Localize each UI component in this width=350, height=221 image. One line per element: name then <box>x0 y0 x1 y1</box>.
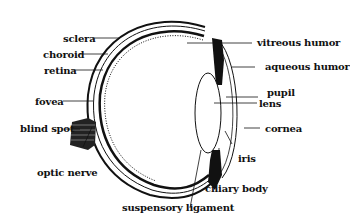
label-fovea: fovea <box>35 97 64 107</box>
label-optic-nerve: optic nerve <box>37 168 98 178</box>
label-iris: iris <box>238 154 256 164</box>
label-cornea: cornea <box>265 124 302 134</box>
eye-diagram <box>0 0 350 221</box>
label-aqueous-humor: aqueous humor <box>265 62 350 72</box>
label-suspensory-ligament: suspensory ligament <box>122 203 234 213</box>
label-pupil: pupil <box>267 88 295 98</box>
label-blind-spot: blind spot <box>20 124 74 134</box>
label-choroid: choroid <box>43 50 84 60</box>
lens-shape <box>195 73 221 153</box>
label-sclera: sclera <box>63 34 95 44</box>
label-vitreous-humor: vitreous humor <box>257 38 340 48</box>
label-retina: retina <box>44 66 77 76</box>
label-lens: lens <box>259 99 281 109</box>
label-ciliary-body: ciliary body <box>205 184 268 194</box>
